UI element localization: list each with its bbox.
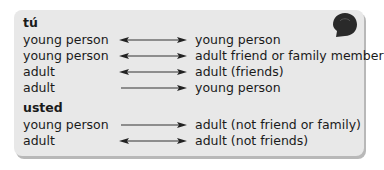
- right-arrow-icon: [119, 83, 187, 93]
- section-heading-tu: tú: [23, 15, 38, 30]
- listener: adult (not friend or family): [195, 117, 361, 132]
- listener: young person: [195, 80, 281, 95]
- speaker: adult: [23, 64, 55, 79]
- list-item: adult young person: [23, 80, 363, 96]
- speaker: young person: [23, 48, 109, 63]
- list-item: young person young person: [23, 32, 363, 48]
- list-item: young person adult (not friend or family…: [23, 117, 363, 133]
- list-item: adult adult (not friends): [23, 133, 363, 149]
- double-arrow-icon: [119, 51, 187, 61]
- speaker: young person: [23, 117, 109, 132]
- section-heading-usted: usted: [23, 100, 63, 115]
- listener: adult friend or family member: [195, 48, 384, 63]
- list-item: young person adult friend or family memb…: [23, 48, 363, 64]
- double-arrow-icon: [119, 35, 187, 45]
- listener: young person: [195, 32, 281, 47]
- double-arrow-icon: [119, 67, 187, 77]
- speaker: adult: [23, 133, 55, 148]
- speaker: adult: [23, 80, 55, 95]
- info-box: tú young person young person young perso…: [14, 10, 364, 156]
- double-arrow-icon: [119, 136, 187, 146]
- listener: adult (friends): [195, 64, 284, 79]
- listener: adult (not friends): [195, 133, 308, 148]
- list-item: adult adult (friends): [23, 64, 363, 80]
- right-arrow-icon: [119, 120, 187, 130]
- speaker: young person: [23, 32, 109, 47]
